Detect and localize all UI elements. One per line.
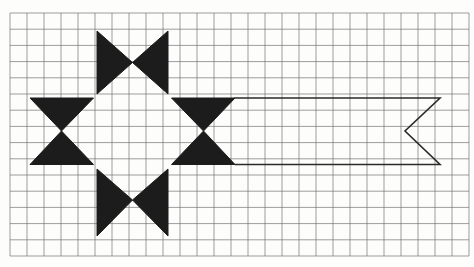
left-bowtie-bottom-triangle [30,131,94,165]
right-bowtie-bottom-triangle [172,131,236,165]
top-bowtie-right-triangle [133,31,169,94]
quilt-star-figure [0,0,474,267]
grid-lines [10,13,469,256]
ribbon-outline [235,98,440,165]
graph-paper [0,0,474,267]
bottom-bowtie-left-triangle [97,169,133,236]
top-bowtie-left-triangle [97,31,133,94]
bottom-bowtie-right-triangle [133,169,169,236]
